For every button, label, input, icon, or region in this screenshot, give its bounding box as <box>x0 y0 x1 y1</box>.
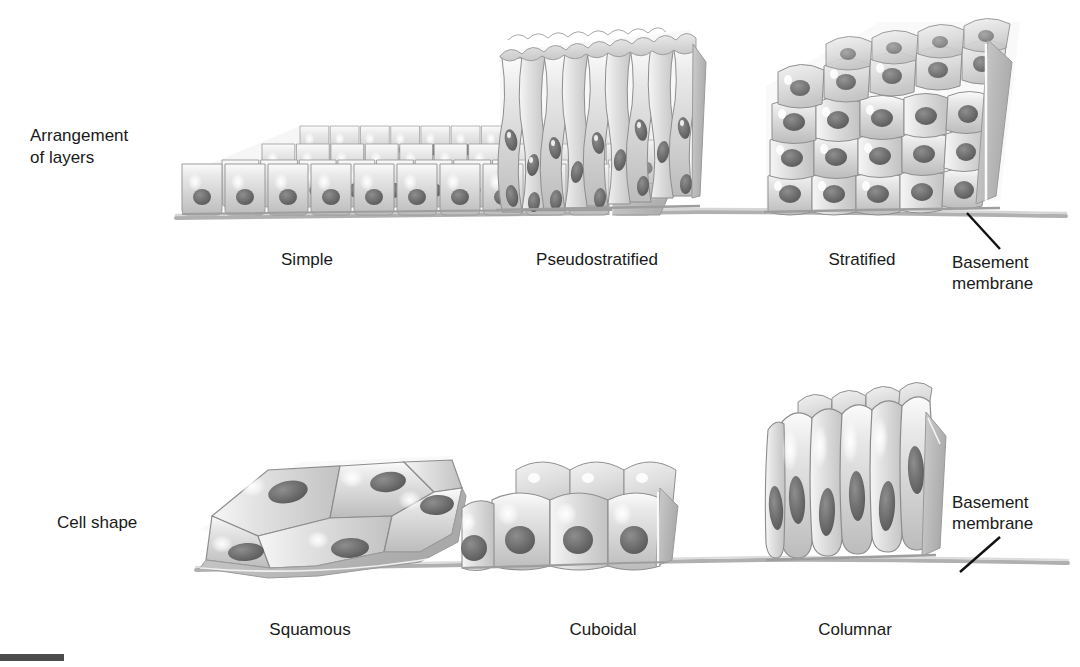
caption-cuboidal: Cuboidal <box>569 619 636 640</box>
leader-line-basement-membrane-top <box>967 213 1000 249</box>
row-label-arrangement-of-layers: Arrangementof layers <box>30 125 128 169</box>
tissue-illustrations <box>0 0 1080 667</box>
row-label-line2: of layers <box>30 148 94 167</box>
leader-line-basement-membrane-bottom <box>960 537 1000 572</box>
illustration-stratified <box>764 18 1020 215</box>
row-label-cell-shape: Cell shape <box>57 512 137 534</box>
callout-line1: Basement <box>952 493 1029 512</box>
row-label-line1: Cell shape <box>57 513 137 532</box>
illustration-cuboidal <box>460 462 678 571</box>
caption-pseudostratified: Pseudostratified <box>536 249 658 270</box>
callout-basement-membrane-bottom: Basementmembrane <box>952 492 1033 534</box>
caption-stratified: Stratified <box>828 249 895 270</box>
caption-columnar: Columnar <box>818 619 892 640</box>
illustration-columnar <box>765 382 946 560</box>
row-label-line1: Arrangement <box>30 126 128 145</box>
epithelial-tissue-figure: Arrangementof layers Cell shape Simple P… <box>0 0 1080 667</box>
caption-squamous: Squamous <box>269 619 350 640</box>
callout-line1: Basement <box>952 253 1029 272</box>
callout-basement-membrane-top: Basementmembrane <box>952 252 1033 294</box>
caption-simple: Simple <box>281 249 333 270</box>
callout-line2: membrane <box>952 274 1033 293</box>
callout-line2: membrane <box>952 514 1033 533</box>
page-edge-mark <box>0 654 64 661</box>
illustration-squamous <box>200 456 466 578</box>
illustration-pseudostratified <box>496 28 706 213</box>
